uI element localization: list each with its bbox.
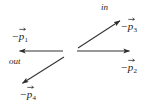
subscript-p4: 4 xyxy=(32,94,36,102)
minus-sign-p4: − xyxy=(20,88,27,100)
subscript-p2: 2 xyxy=(133,67,137,75)
annotation-out: out xyxy=(9,57,21,66)
vector-symbol-p4: p xyxy=(27,89,33,100)
momentum-vector-diagram: −p1 −p2 −p3 −p4 in out xyxy=(0,0,155,106)
label-momentum-p4: −p4 xyxy=(20,89,36,102)
annotation-in: in xyxy=(101,3,108,12)
p-symbol-p3: p xyxy=(128,20,134,32)
p-symbol-p4: p xyxy=(27,88,33,100)
vector-arrow-p3 xyxy=(78,21,120,48)
label-momentum-p3: −p3 xyxy=(121,21,137,34)
vector-symbol-p2: p xyxy=(128,62,134,73)
p-symbol-p1: p xyxy=(19,30,25,42)
subscript-p3: 3 xyxy=(133,26,137,34)
vector-symbol-p3: p xyxy=(128,21,134,32)
subscript-p1: 1 xyxy=(24,36,28,44)
vector-symbol-p1: p xyxy=(19,31,25,42)
minus-sign-p1: − xyxy=(12,30,19,42)
vector-arrow-p4 xyxy=(22,57,64,83)
label-momentum-p2: −p2 xyxy=(121,62,137,75)
label-momentum-p1: −p1 xyxy=(12,31,28,44)
minus-sign-p3: − xyxy=(121,20,128,32)
p-symbol-p2: p xyxy=(128,61,134,73)
minus-sign-p2: − xyxy=(121,61,128,73)
